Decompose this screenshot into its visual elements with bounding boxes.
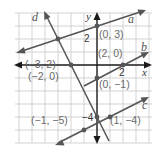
line-c-label: c [142,98,148,112]
label-point-2-0: (2, 0) [98,47,123,59]
line-b-label: b [141,40,147,54]
label-point-1-m4: (1, −4) [110,114,141,126]
label-point-0-m1: (0, −1) [99,78,130,90]
label-point-m2-0: (−2, 0) [28,70,59,82]
label-point-m1-m5: (−1, −5) [31,114,68,126]
y-axis-label: y [85,10,91,22]
x-tick-2: 2 [119,67,125,78]
point-m3-2 [56,37,61,42]
label-point-m3-2: (−3, 2) [25,58,56,70]
line-d-label: d [32,10,39,24]
y-tick-m4: −4 [82,112,94,123]
line-a-arrow-left-icon [16,47,26,54]
line-a-label: a [128,12,134,26]
label-point-0-3: (0, 3) [99,28,124,40]
y-tick-2: 2 [84,33,90,44]
x-axis-label: x [141,66,147,78]
point-intersection-d-y-axis [95,115,100,120]
coordinate-plane: d a b c y x 2 2 −4 (0, 3) (2, 0) (−3, 2)… [0,0,157,150]
point-m1-m5 [82,128,87,133]
point-m2-0 [69,63,74,68]
x-axis-left-arrow-icon [14,62,22,69]
